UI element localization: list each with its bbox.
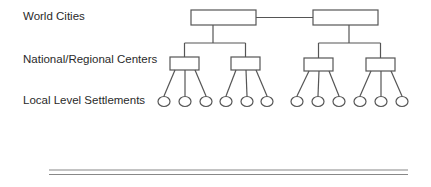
settlement-links: [164, 70, 402, 96]
double-rule: [49, 170, 408, 175]
world-city-node-1: [191, 10, 256, 25]
regional-center-node-3: [304, 58, 333, 71]
settlement-nodes: [158, 97, 408, 107]
hierarchy-diagram: [0, 0, 431, 187]
regional-center-node-2: [231, 57, 260, 70]
world-city-node-2: [313, 10, 378, 25]
regional-center-node-4: [366, 58, 395, 71]
regional-center-node-1: [170, 57, 199, 70]
